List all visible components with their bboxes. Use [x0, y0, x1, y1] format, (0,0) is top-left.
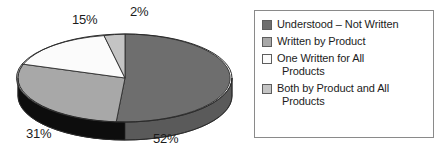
legend-item-understood-not-written: Understood – Not Written [262, 18, 428, 31]
legend-label-line1: Both by Product and All [277, 82, 389, 94]
chart-legend: Understood – Not Written Written by Prod… [254, 10, 434, 138]
legend-item-both-by-product-and-all-products: Both by Product and AllProducts [262, 82, 428, 108]
legend-item-one-written-for-all-products: One Written for AllProducts [262, 52, 428, 78]
legend-label-line2: Products [277, 95, 389, 108]
legend-swatch-icon [262, 54, 272, 64]
pie-label-52: 52% [153, 131, 178, 146]
legend-label: Understood – Not Written [277, 18, 399, 31]
legend-label-line1: One Written for All [277, 52, 364, 64]
legend-label: One Written for AllProducts [277, 52, 364, 78]
legend-swatch-icon [262, 37, 272, 47]
legend-label-line2: Products [277, 65, 364, 78]
legend-label: Both by Product and AllProducts [277, 82, 389, 108]
pie-label-2: 2% [130, 4, 148, 19]
pie-label-15: 15% [72, 12, 97, 27]
legend-swatch-icon [262, 20, 272, 30]
pie-label-31: 31% [26, 126, 51, 141]
legend-item-written-by-product: Written by Product [262, 35, 428, 48]
pie-chart-area: 2% 15% 31% 52% [0, 0, 250, 151]
legend-label: Written by Product [277, 35, 365, 48]
legend-swatch-icon [262, 84, 272, 94]
